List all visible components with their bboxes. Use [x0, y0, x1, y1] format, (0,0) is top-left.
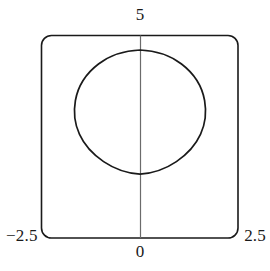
plot-figure: 5 0 −2.5 2.5 — [0, 0, 270, 271]
y-axis-tick-label-top: 5 — [5, 6, 270, 23]
x-axis-tick-label-left: −2.5 — [6, 227, 38, 244]
x-axis-tick-label-right: 2.5 — [244, 227, 266, 244]
plot-frame — [42, 36, 239, 239]
plot-canvas — [0, 0, 270, 271]
x-axis-tick-label-center: 0 — [5, 243, 270, 260]
